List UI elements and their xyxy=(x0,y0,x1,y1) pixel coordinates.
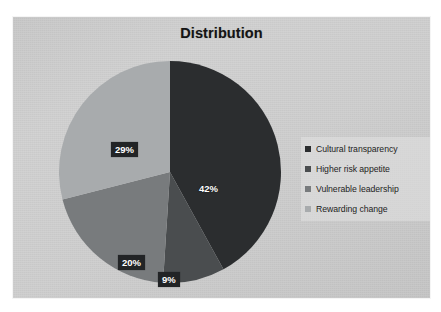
legend-label-3: Rewarding change xyxy=(316,204,388,214)
chart-legend: Cultural transparency Higher risk appeti… xyxy=(301,137,430,221)
legend-label-0: Cultural transparency xyxy=(316,144,398,154)
legend-item-vulnerable-leadership[interactable]: Vulnerable leadership xyxy=(303,181,429,196)
pie-slice-label-0: 42% xyxy=(199,184,218,194)
pie-chart: 42% 9% 20% 29% xyxy=(58,60,282,284)
legend-item-higher-risk-appetite[interactable]: Higher risk appetite xyxy=(303,161,429,176)
legend-swatch-icon-3 xyxy=(305,206,311,212)
legend-item-rewarding-change[interactable]: Rewarding change xyxy=(303,201,429,216)
chart-title: Distribution xyxy=(13,25,430,41)
slide-frame: Distribution 42% 9% 20% 29% Cultural tra… xyxy=(0,0,441,312)
legend-swatch-icon-0 xyxy=(305,146,311,152)
pie-chart-svg xyxy=(58,60,282,284)
legend-item-cultural-transparency[interactable]: Cultural transparency xyxy=(303,141,429,156)
pie-slice-label-3: 29% xyxy=(111,142,138,157)
presentation-slide: Distribution 42% 9% 20% 29% Cultural tra… xyxy=(13,17,430,298)
pie-slices xyxy=(59,61,281,283)
legend-label-2: Vulnerable leadership xyxy=(316,184,399,194)
legend-label-1: Higher risk appetite xyxy=(316,164,390,174)
legend-swatch-icon-1 xyxy=(305,166,311,172)
legend-swatch-icon-2 xyxy=(305,186,311,192)
pie-slice-label-2: 20% xyxy=(118,255,145,270)
pie-slice-label-1: 9% xyxy=(158,272,180,287)
